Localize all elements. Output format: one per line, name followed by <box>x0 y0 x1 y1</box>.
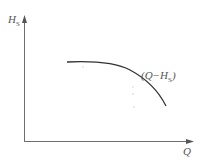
x-axis-arrow-icon <box>186 139 194 144</box>
noise-speck <box>132 93 134 95</box>
y-axis-label: HS <box>8 13 20 28</box>
x-axis-label: Q <box>183 145 191 157</box>
noise-speck <box>82 66 84 68</box>
noise-speck <box>133 106 135 108</box>
y-axis-arrow-icon <box>22 15 27 23</box>
noise-speck <box>132 86 134 88</box>
curve-label: (Q−HS) <box>141 69 176 84</box>
diagram-canvas <box>0 0 207 167</box>
